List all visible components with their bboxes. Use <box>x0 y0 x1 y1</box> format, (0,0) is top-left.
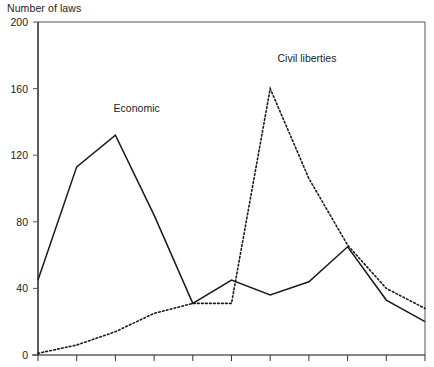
line-chart-icon <box>0 0 434 367</box>
series-line-civil-liberties <box>38 89 425 354</box>
series-line-economic <box>38 135 425 321</box>
y-axis-ticks <box>33 22 38 355</box>
x-axis-ticks <box>38 355 425 361</box>
data-series-group <box>38 89 425 354</box>
chart-root: Number of laws 04080120160200 EconomicCi… <box>0 0 434 367</box>
plot-frame <box>32 22 425 355</box>
